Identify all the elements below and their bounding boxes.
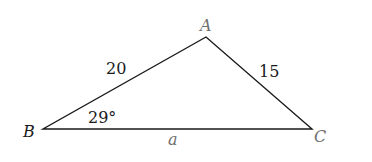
side-label-ab: 20 xyxy=(106,59,126,78)
angle-label-b: 29° xyxy=(88,108,116,127)
vertex-label-b: B xyxy=(22,122,35,141)
vertex-label-a: A xyxy=(198,16,212,35)
triangle-abc xyxy=(43,37,312,129)
side-label-ac: 15 xyxy=(259,62,279,81)
side-label-bc: a xyxy=(168,130,178,149)
triangle-diagram: A B C 20 15 a 29° xyxy=(0,0,372,162)
vertex-label-c: C xyxy=(314,127,326,146)
